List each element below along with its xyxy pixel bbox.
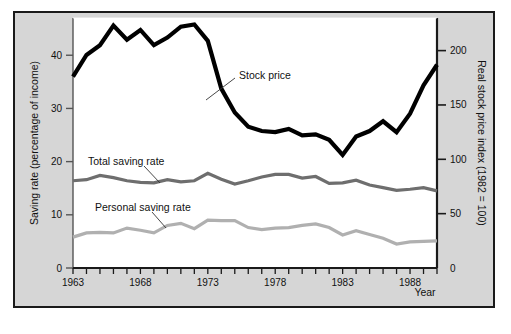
plot-area-background — [73, 18, 437, 268]
x-tick-label: 1968 — [129, 277, 152, 288]
y-axis-left-ticks — [66, 55, 73, 268]
x-tick-label: 1973 — [197, 277, 220, 288]
y-left-tick-label: 0 — [56, 263, 62, 274]
y-axis-right-title: Real stock price index (1982 = 100) — [476, 60, 488, 225]
y-right-tick-label: 150 — [450, 99, 467, 110]
y-right-tick-label: 0 — [450, 263, 456, 274]
y-right-tick-label: 50 — [450, 208, 462, 219]
stock-price-label: Stock price — [239, 69, 291, 81]
y-right-tick-label: 100 — [450, 154, 467, 165]
personal-saving-rate-label: Personal saving rate — [95, 201, 191, 213]
y-axis-right-tick-labels: 050100150200 — [450, 45, 467, 273]
x-tick-label: 1963 — [62, 277, 85, 288]
y-axis-left-title: Saving rate (percentage of income) — [28, 61, 40, 225]
x-axis-tick-labels: 196319681973197819831988 — [62, 277, 422, 288]
y-axis-right-ticks — [437, 51, 446, 214]
chart-figure: 010203040 050100150200 19631968197319781… — [0, 0, 511, 334]
chart-canvas: 010203040 050100150200 19631968197319781… — [0, 0, 511, 334]
y-axis-left-tick-labels: 010203040 — [51, 50, 63, 274]
y-left-tick-label: 10 — [51, 209, 63, 220]
x-tick-label: 1978 — [264, 277, 287, 288]
y-right-tick-label: 200 — [450, 45, 467, 56]
y-left-tick-label: 30 — [51, 103, 63, 114]
total-saving-rate-label: Total saving rate — [88, 155, 165, 167]
y-left-tick-label: 40 — [51, 50, 63, 61]
x-tick-label: 1983 — [332, 277, 355, 288]
x-axis-title: Year — [414, 286, 436, 298]
y-left-tick-label: 20 — [51, 156, 63, 167]
